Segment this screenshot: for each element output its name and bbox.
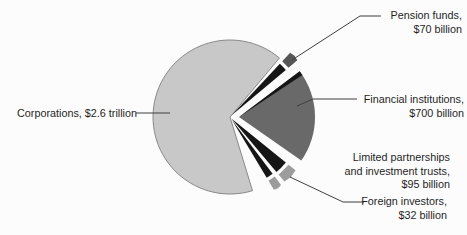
- pie-chart-figure: Pension funds, $70 billion Financial ins…: [0, 0, 467, 235]
- label-limited-partnerships: Limited partnerships and investment trus…: [344, 151, 450, 192]
- leader-line-pension-funds: [292, 16, 381, 60]
- slice-cap-foreign-investors: [269, 177, 282, 190]
- label-corporations: Corporations, $2.6 trillion: [17, 107, 137, 121]
- label-financial-institutions: Financial institutions, $700 billion: [364, 93, 464, 120]
- label-pension-funds: Pension funds, $70 billion: [391, 9, 462, 36]
- slice-cap-pension-funds: [282, 53, 297, 68]
- label-foreign-investors: Foreign investors, $32 billion: [361, 195, 447, 222]
